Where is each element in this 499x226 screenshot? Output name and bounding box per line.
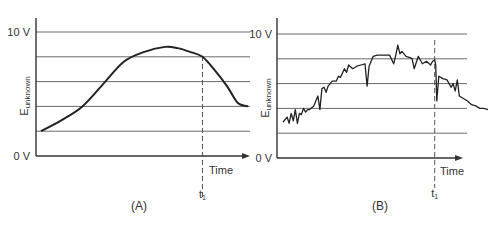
- t1-label-sub-b: 1: [434, 193, 438, 200]
- svg-text:Eunknown: Eunknown: [18, 76, 32, 115]
- t1-label-a: t1: [199, 188, 206, 201]
- svg-text:Eunknown: Eunknown: [259, 78, 273, 117]
- t1-label-b: t1: [431, 187, 438, 200]
- panel-a: 10 V 0 V Eunknown t1 Time (A): [7, 18, 250, 213]
- panel-caption-b: (B): [372, 199, 388, 213]
- y-tick-label-10v-b: 10 V: [249, 28, 272, 40]
- y-tick-label-0v-a: 0 V: [13, 150, 30, 162]
- figure: 10 V 0 V Eunknown t1 Time (A) 10 V 0 V E…: [0, 0, 499, 226]
- panel-caption-a: (A): [131, 199, 147, 213]
- y-tick-label-10v-a: 10 V: [7, 26, 30, 38]
- y-tick-label-0v-b: 0 V: [255, 152, 272, 164]
- series-line-b: [283, 45, 488, 123]
- x-axis-label-a: Time: [209, 164, 233, 176]
- y-axis-label-a: Eunknown: [18, 76, 32, 115]
- x-axis-label-b: Time: [440, 165, 464, 177]
- y-axis-label-main-b: E: [259, 110, 271, 117]
- x-axis-arrow-b: [455, 155, 463, 161]
- x-axis-arrow-a: [242, 153, 250, 159]
- series-line-a: [41, 47, 248, 132]
- y-axis-label-main-a: E: [18, 108, 30, 115]
- y-axis-label-sub-b: unknown: [264, 78, 273, 110]
- panel-b: 10 V 0 V Eunknown t1 Time (B): [249, 18, 488, 213]
- y-axis-label-b: Eunknown: [259, 78, 273, 117]
- y-axis-label-sub-a: unknown: [23, 76, 32, 108]
- t1-label-sub-a: 1: [202, 194, 206, 201]
